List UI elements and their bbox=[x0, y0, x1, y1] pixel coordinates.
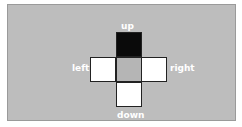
dpad-up-button[interactable] bbox=[116, 32, 142, 57]
dpad-center bbox=[116, 57, 142, 82]
dpad-down-button[interactable] bbox=[116, 82, 142, 107]
down-label: down bbox=[117, 110, 144, 120]
up-label: up bbox=[121, 21, 134, 31]
dpad-left-button[interactable] bbox=[90, 57, 116, 82]
dpad-right-button[interactable] bbox=[141, 57, 167, 82]
left-label: left bbox=[72, 63, 89, 73]
right-label: right bbox=[170, 63, 195, 73]
